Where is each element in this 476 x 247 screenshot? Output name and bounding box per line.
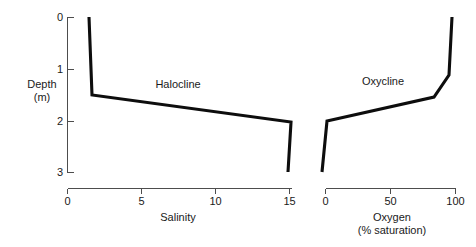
depth-tick-label-1: 1	[57, 63, 63, 75]
oxygen-axis-title-line1: Oxygen	[373, 211, 411, 223]
depth-tick-label-2: 2	[57, 115, 63, 127]
oxygen-tick-label-100: 100	[446, 195, 464, 207]
salinity-tick-label-5: 5	[138, 195, 144, 207]
salinity-profile-line	[89, 17, 291, 172]
halocline-annotation: Halocline	[155, 78, 200, 90]
oxygen-panel: 0 50 100 Oxygen (% saturation) Oxycline	[322, 17, 465, 236]
salinity-tick-label-15: 15	[283, 195, 295, 207]
oxygen-tick-label-50: 50	[384, 195, 396, 207]
oxygen-axis-title-line2: (% saturation)	[358, 224, 426, 236]
salinity-panel: 0 5 10 15 Salinity Halocline	[64, 17, 295, 223]
oxygen-profile-line	[322, 17, 452, 172]
salinity-tick-label-0: 0	[64, 195, 70, 207]
profile-chart-canvas: 0 1 2 3 Depth (m) 0 5 10 15 Salinity Hal…	[0, 0, 476, 247]
oxycline-annotation: Oxycline	[362, 75, 404, 87]
depth-tick-label-3: 3	[57, 166, 63, 178]
depth-axis-title-line1: Depth	[27, 78, 56, 90]
salinity-axis-title: Salinity	[160, 211, 196, 223]
oxygen-tick-label-0: 0	[322, 195, 328, 207]
salinity-tick-label-10: 10	[209, 195, 221, 207]
depth-profile-figure: 0 1 2 3 Depth (m) 0 5 10 15 Salinity Hal…	[0, 0, 476, 247]
depth-axis: 0 1 2 3 Depth (m)	[27, 11, 73, 178]
depth-tick-label-0: 0	[57, 11, 63, 23]
depth-axis-title-line2: (m)	[34, 91, 51, 103]
